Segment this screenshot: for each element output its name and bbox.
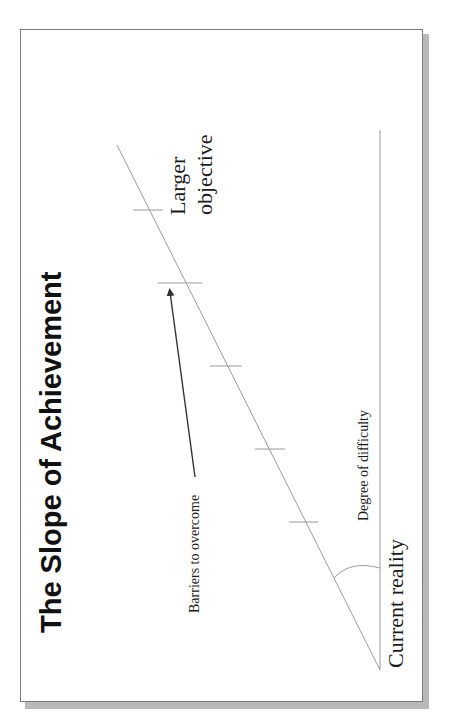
barrier-arrow [170,292,195,477]
label-barriers: Barriers to overcome [188,495,202,613]
label-degree-of-difficulty: Degree of difficulty [357,410,371,521]
angle-arc [334,566,380,578]
slope-line [117,145,380,670]
label-current-reality: Current reality [385,539,407,668]
label-objective: objective [194,134,216,215]
slide-title: The Slope of Achievement [37,272,66,634]
slide-canvas: The Slope of Achievement Larger objectiv… [0,0,453,727]
label-larger: Larger [167,157,189,215]
